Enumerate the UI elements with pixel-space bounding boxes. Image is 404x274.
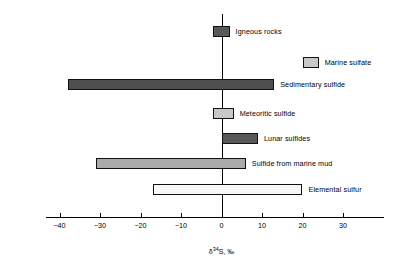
x-axis-tick [343, 213, 344, 217]
range-bar [213, 108, 233, 119]
x-axis-tick-label: −40 [40, 222, 80, 229]
x-axis-line [46, 217, 384, 218]
plot-area: Igneous rocksMarine sulfateSedimentary s… [0, 0, 404, 274]
x-axis-tick-label: 10 [242, 222, 282, 229]
sulfur-isotope-range-chart: Igneous rocksMarine sulfateSedimentary s… [0, 0, 404, 274]
range-bar [96, 158, 246, 169]
range-bar [213, 26, 229, 37]
x-axis-tick-label: −10 [161, 222, 201, 229]
axis-title-permille: ‰ [227, 248, 234, 255]
x-axis-tick-label: 20 [283, 222, 323, 229]
x-axis-tick [303, 213, 304, 217]
axis-title-element: S, [219, 248, 226, 255]
range-bar-label: Lunar sulfides [264, 135, 310, 142]
range-bar [68, 79, 275, 90]
range-bar [303, 57, 319, 68]
x-axis-tick [141, 213, 142, 217]
x-axis-tick-label: 30 [323, 222, 363, 229]
range-bar [222, 133, 258, 144]
range-bar-label: Igneous rocks [236, 28, 282, 35]
x-axis-tick [181, 213, 182, 217]
range-bar-label: Marine sulfate [325, 59, 372, 66]
x-axis-tick [60, 213, 61, 217]
x-axis-tick-label: 0 [202, 222, 242, 229]
x-axis-tick-label: −30 [80, 222, 120, 229]
x-axis-tick-label: −20 [121, 222, 161, 229]
range-bar-label: Elemental sulfur [309, 186, 362, 193]
x-axis-tick [262, 213, 263, 217]
range-bar [153, 184, 303, 195]
range-bar-label: Meteoritic sulfide [240, 110, 296, 117]
x-axis-tick [222, 213, 223, 217]
range-bar-label: Sedimentary sulfide [280, 81, 345, 88]
x-axis-title: δ34S, ‰ [20, 247, 404, 255]
x-axis-tick [100, 213, 101, 217]
range-bar-label: Sulfide from marine mud [252, 160, 333, 167]
